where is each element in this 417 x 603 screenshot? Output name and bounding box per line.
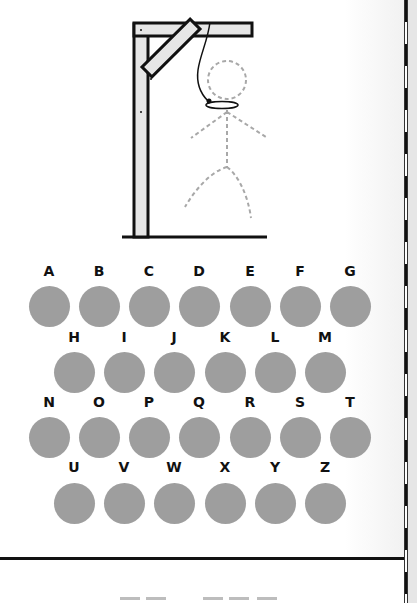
- letter-label-x: X: [205, 459, 245, 475]
- letter-label-n: N: [29, 394, 69, 410]
- gallows-icon: [110, 0, 280, 245]
- word-blank: [120, 597, 140, 600]
- background-texture: [408, 0, 417, 603]
- letter-button-p[interactable]: [129, 417, 170, 458]
- letter-button-b[interactable]: [79, 286, 120, 327]
- letter-button-v[interactable]: [104, 483, 145, 524]
- letter-button-q[interactable]: [179, 417, 220, 458]
- dashed-edge-border: [404, 0, 408, 603]
- letter-button-r[interactable]: [230, 417, 271, 458]
- word-blank: [229, 597, 249, 600]
- letter-button-s[interactable]: [280, 417, 321, 458]
- letter-label-w: W: [154, 459, 194, 475]
- letter-button-t[interactable]: [330, 417, 371, 458]
- letter-button-a[interactable]: [29, 286, 70, 327]
- letter-label-g: G: [330, 263, 370, 279]
- letter-label-s: S: [280, 394, 320, 410]
- letter-button-n[interactable]: [29, 417, 70, 458]
- letter-label-i: I: [104, 329, 144, 345]
- letter-label-p: P: [129, 394, 169, 410]
- letter-label-a: A: [29, 263, 69, 279]
- letter-label-m: M: [305, 329, 345, 345]
- letter-button-e[interactable]: [230, 286, 271, 327]
- letter-label-r: R: [230, 394, 270, 410]
- letter-button-i[interactable]: [104, 352, 145, 393]
- word-blank: [257, 597, 277, 600]
- letter-button-f[interactable]: [280, 286, 321, 327]
- letter-label-c: C: [129, 263, 169, 279]
- letter-button-w[interactable]: [154, 483, 195, 524]
- letter-label-v: V: [104, 459, 144, 475]
- word-blank: [146, 597, 166, 600]
- letter-button-u[interactable]: [54, 483, 95, 524]
- letter-label-u: U: [54, 459, 94, 475]
- word-blank: [203, 597, 223, 600]
- letter-label-t: T: [330, 394, 370, 410]
- letter-label-j: J: [154, 329, 194, 345]
- letter-label-l: L: [255, 329, 295, 345]
- letter-label-d: D: [179, 263, 219, 279]
- panel-divider: [0, 557, 407, 560]
- letter-label-q: Q: [179, 394, 219, 410]
- letter-label-o: O: [79, 394, 119, 410]
- letter-button-j[interactable]: [154, 352, 195, 393]
- letter-button-m[interactable]: [305, 352, 346, 393]
- letter-label-e: E: [230, 263, 270, 279]
- letter-button-h[interactable]: [54, 352, 95, 393]
- letter-button-g[interactable]: [330, 286, 371, 327]
- letter-label-f: F: [280, 263, 320, 279]
- letter-button-k[interactable]: [205, 352, 246, 393]
- letter-label-k: K: [205, 329, 245, 345]
- letter-button-y[interactable]: [255, 483, 296, 524]
- letter-button-l[interactable]: [255, 352, 296, 393]
- letter-button-o[interactable]: [79, 417, 120, 458]
- letter-label-b: B: [79, 263, 119, 279]
- letter-label-h: H: [54, 329, 94, 345]
- letter-button-c[interactable]: [129, 286, 170, 327]
- letter-label-y: Y: [255, 459, 295, 475]
- letter-button-z[interactable]: [305, 483, 346, 524]
- letter-button-d[interactable]: [179, 286, 220, 327]
- letter-button-x[interactable]: [205, 483, 246, 524]
- letter-label-z: Z: [305, 459, 345, 475]
